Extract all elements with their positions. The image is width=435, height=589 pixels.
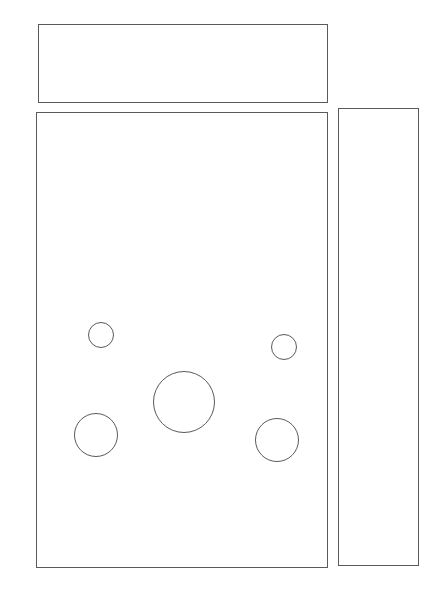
circle-node-small-upper-left[interactable]: Small Circle Upper Left xyxy=(88,322,114,348)
header-panel[interactable]: Header Panel xyxy=(38,24,328,103)
circle-node-small-upper-right[interactable]: Small Circle Upper Right xyxy=(271,334,297,360)
main-canvas-panel[interactable]: Main Canvas Panel Small Circle Upper Lef… xyxy=(36,112,328,568)
circle-node-medium-lower-left[interactable]: Medium Circle Lower Left xyxy=(74,413,118,457)
circle-node-medium-lower-right[interactable]: Medium Circle Lower Right xyxy=(255,418,299,462)
right-side-panel[interactable]: Right Side Panel xyxy=(338,108,419,566)
app-root: Header Panel Main Canvas Panel Small Cir… xyxy=(0,0,435,589)
circle-node-large-center[interactable]: Large Circle Center xyxy=(153,371,215,433)
